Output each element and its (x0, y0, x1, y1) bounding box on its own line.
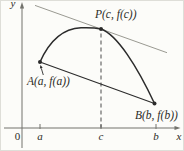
point-p-dot (99, 27, 103, 31)
point-b-label: B(b, f(b)) (135, 109, 178, 122)
diagram-canvas: y x 0 a c b P(c, f(c)) A(a, f(a)) B(b, f… (0, 0, 184, 151)
mvt-diagram: y x 0 a c b P(c, f(c)) A(a, f(a)) B(b, f… (0, 0, 184, 151)
point-a-dot (38, 60, 42, 64)
origin-label: 0 (15, 130, 21, 142)
tick-a-label: a (37, 130, 43, 142)
point-b-dot (153, 102, 157, 106)
tick-b-label: b (153, 130, 159, 142)
point-a-label: A(a, f(a)) (26, 75, 70, 88)
point-p-label: P(c, f(c)) (94, 8, 137, 21)
x-axis-label: x (176, 130, 182, 142)
y-axis-label: y (10, 0, 16, 9)
tick-c-label: c (99, 130, 104, 142)
